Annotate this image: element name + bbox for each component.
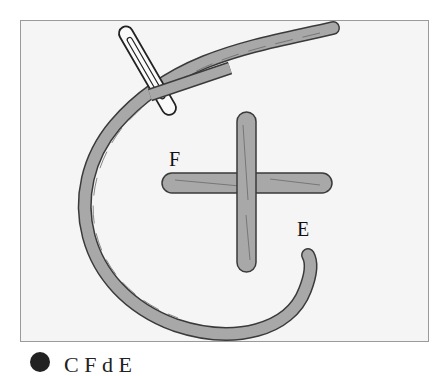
label-point-f: F (169, 148, 180, 171)
needle-icon (116, 24, 178, 118)
vertical-stitch (237, 112, 256, 272)
caption-text: C F d E (64, 352, 132, 376)
label-point-e: E (297, 218, 309, 241)
step-caption: C F d E (30, 352, 132, 376)
step-number-badge (30, 352, 50, 372)
